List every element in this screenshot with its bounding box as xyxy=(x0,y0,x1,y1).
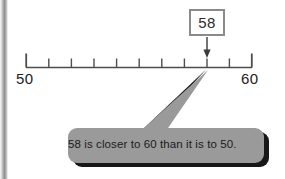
axis-label-start: 50 xyxy=(16,70,33,87)
marker-arrow-head xyxy=(203,50,210,59)
marker-value-box: 58 xyxy=(189,9,225,36)
axis-label-end: 60 xyxy=(241,70,258,87)
callout-tail xyxy=(141,70,209,131)
marker-value-label: 58 xyxy=(198,14,215,31)
figure-canvas: 58 50 60 58 is closer to 60 than it is t… xyxy=(0,0,285,179)
diagram-svg xyxy=(0,0,285,179)
callout-text: 58 is closer to 60 than it is to 50. xyxy=(68,138,258,150)
tick-minor-group xyxy=(49,59,230,68)
